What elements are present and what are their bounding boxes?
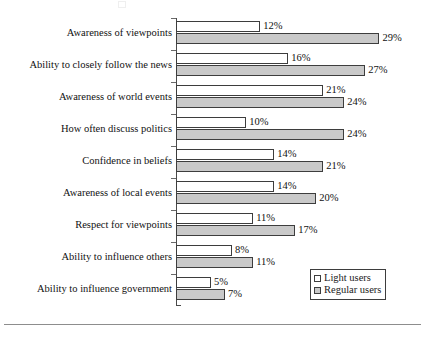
bar-regular[interactable] — [176, 65, 365, 76]
bar-value-label: 5% — [214, 276, 228, 287]
axis-tick — [171, 242, 176, 243]
axis-tick — [171, 50, 176, 51]
bar-value-label: 10% — [249, 116, 268, 127]
bar-group: Ability to influence others8%11% — [176, 242, 425, 274]
bar-value-label: 17% — [298, 224, 317, 235]
axis-tick — [171, 18, 176, 19]
bar-value-label: 21% — [326, 160, 345, 171]
axis-tick — [171, 178, 176, 179]
bar-value-label: 14% — [277, 148, 296, 159]
bar-regular[interactable] — [176, 257, 253, 268]
bar-light[interactable] — [176, 85, 323, 96]
bar-regular[interactable] — [176, 289, 225, 300]
bar-light[interactable] — [176, 149, 274, 160]
category-label: Confidence in beliefs — [0, 155, 172, 167]
bar-value-label: 21% — [326, 84, 345, 95]
bar-light[interactable] — [176, 245, 232, 256]
axis-tick — [171, 274, 176, 275]
category-label: Ability to closely follow the news — [0, 59, 172, 71]
bar-value-label: 14% — [277, 180, 296, 191]
bar-group: Awareness of local events14%20% — [176, 178, 425, 210]
category-label: Respect for viewpoints — [0, 219, 172, 231]
bar-value-label: 27% — [368, 64, 387, 75]
bar-light[interactable] — [176, 117, 246, 128]
bar-light[interactable] — [176, 21, 260, 32]
legend-item-regular-users[interactable]: Regular users — [314, 284, 382, 296]
bar-group: Ability to influence government5%7% — [176, 274, 425, 306]
bar-light[interactable] — [176, 213, 253, 224]
bar-value-label: 11% — [256, 212, 275, 223]
bar-value-label: 16% — [291, 52, 310, 63]
chart-figure: Awareness of viewpoints12%29%Ability to … — [0, 0, 425, 340]
legend-swatch-light-users — [314, 275, 321, 282]
bar-group: Respect for viewpoints11%17% — [176, 210, 425, 242]
bar-regular[interactable] — [176, 97, 344, 108]
category-label: Ability to influence government — [0, 283, 172, 295]
legend-swatch-regular-users — [314, 287, 321, 294]
top-clipped-artifact — [118, 1, 126, 8]
bar-group: Awareness of viewpoints12%29% — [176, 18, 425, 50]
legend-item-light-users[interactable]: Light users — [314, 272, 382, 284]
category-label: How often discuss politics — [0, 123, 172, 135]
legend-label-regular-users: Regular users — [324, 284, 381, 296]
bar-group: Ability to closely follow the news16%27% — [176, 50, 425, 82]
category-label: Ability to influence others — [0, 251, 172, 263]
bar-value-label: 24% — [347, 96, 366, 107]
bar-value-label: 20% — [319, 192, 338, 203]
bar-group: How often discuss politics10%24% — [176, 114, 425, 146]
category-label: Awareness of local events — [0, 187, 172, 199]
plot-area: Awareness of viewpoints12%29%Ability to … — [176, 18, 425, 306]
bar-light[interactable] — [176, 53, 288, 64]
chart-legend: Light users Regular users — [310, 269, 386, 300]
axis-tick — [171, 114, 176, 115]
bar-regular[interactable] — [176, 225, 295, 236]
axis-tick — [171, 210, 176, 211]
bar-regular[interactable] — [176, 33, 379, 44]
bar-regular[interactable] — [176, 129, 344, 140]
bar-value-label: 24% — [347, 128, 366, 139]
bar-regular[interactable] — [176, 161, 323, 172]
legend-label-light-users: Light users — [324, 272, 371, 284]
bar-light[interactable] — [176, 277, 211, 288]
category-label: Awareness of viewpoints — [0, 27, 172, 39]
category-label: Awareness of world events — [0, 91, 172, 103]
axis-tick — [171, 82, 176, 83]
bar-value-label: 12% — [263, 20, 282, 31]
bar-regular[interactable] — [176, 193, 316, 204]
bar-value-label: 7% — [228, 288, 242, 299]
bar-light[interactable] — [176, 181, 274, 192]
bottom-divider-rule — [4, 324, 421, 325]
bar-value-label: 29% — [382, 32, 401, 43]
bar-value-label: 8% — [235, 244, 249, 255]
axis-tick — [171, 146, 176, 147]
bar-group: Confidence in beliefs14%21% — [176, 146, 425, 178]
bar-value-label: 11% — [256, 256, 275, 267]
bar-group: Awareness of world events21%24% — [176, 82, 425, 114]
